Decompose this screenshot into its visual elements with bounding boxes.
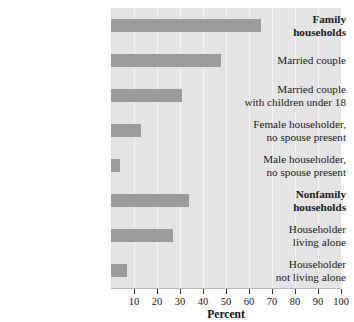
gridline-40	[203, 8, 204, 288]
tick-60	[249, 289, 250, 294]
category-label: Householder living alone	[238, 223, 346, 248]
tick-40	[203, 289, 204, 294]
gridline-50	[226, 8, 227, 288]
gridline-20	[157, 8, 158, 288]
gridline-30	[180, 8, 181, 288]
tick-label-100: 100	[328, 296, 354, 308]
chart-title-cutoff	[111, 0, 341, 2]
bar	[111, 229, 173, 242]
tick-10	[134, 289, 135, 294]
bar	[111, 89, 182, 102]
tick-100	[341, 289, 342, 294]
x-axis-title: Percent	[111, 308, 341, 321]
bar	[111, 264, 127, 277]
bar	[111, 159, 120, 172]
tick-90	[318, 289, 319, 294]
gridline-10	[134, 8, 135, 288]
category-label: Family households	[238, 13, 346, 38]
category-label: Married couple	[238, 54, 346, 66]
category-label: Male householder, no spouse present	[238, 153, 346, 178]
category-label: Nonfamily households	[238, 188, 346, 213]
tick-70	[272, 289, 273, 294]
category-label: Married couple with children under 18	[238, 83, 346, 108]
category-label: Female householder, no spouse present	[238, 118, 346, 143]
bar	[111, 194, 189, 207]
bar	[111, 54, 221, 67]
tick-30	[180, 289, 181, 294]
tick-20	[157, 289, 158, 294]
category-label: Householder not living alone	[238, 258, 346, 283]
tick-80	[295, 289, 296, 294]
tick-50	[226, 289, 227, 294]
bar	[111, 124, 141, 137]
